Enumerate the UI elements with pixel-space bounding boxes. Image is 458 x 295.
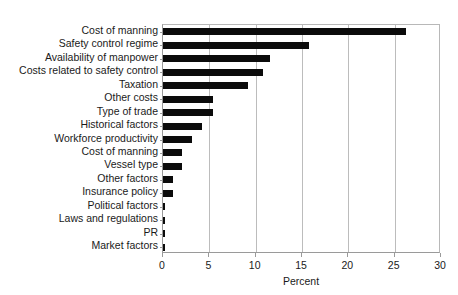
x-tick-mark xyxy=(301,253,302,257)
x-tick-label: 25 xyxy=(379,259,409,271)
bar-row xyxy=(163,227,165,240)
bar xyxy=(163,149,182,156)
category-axis-labels: Cost of manningSafety control regimeAvai… xyxy=(0,24,158,253)
bar xyxy=(163,230,165,237)
y-tick-mark xyxy=(160,140,163,141)
bars-container xyxy=(163,25,439,252)
category-label: Safety control regime xyxy=(0,38,158,49)
category-label: Political factors xyxy=(0,200,158,211)
bar xyxy=(163,82,248,89)
y-tick-mark xyxy=(160,72,163,73)
y-tick-mark xyxy=(160,234,163,235)
category-label: Insurance policy xyxy=(0,186,158,197)
category-label: Other costs xyxy=(0,92,158,103)
bar-row xyxy=(163,25,406,38)
y-tick-mark xyxy=(160,45,163,46)
bar-row xyxy=(163,214,165,227)
category-label: Workforce productivity xyxy=(0,133,158,144)
x-axis: Percent 051015202530 xyxy=(162,253,440,295)
x-tick-label: 30 xyxy=(425,259,455,271)
bar xyxy=(163,163,182,170)
bar-row xyxy=(163,146,182,159)
category-label: Historical factors xyxy=(0,119,158,130)
x-tick-label: 0 xyxy=(147,259,177,271)
x-tick-mark xyxy=(162,253,163,257)
bar xyxy=(163,55,270,62)
plot-area xyxy=(162,24,440,253)
y-tick-mark xyxy=(160,153,163,154)
y-tick-mark xyxy=(160,113,163,114)
bar xyxy=(163,190,173,197)
y-tick-mark xyxy=(160,166,163,167)
x-axis-title: Percent xyxy=(162,275,440,287)
bar-row xyxy=(163,160,182,173)
category-label: Availability of manpower xyxy=(0,52,158,63)
x-tick-mark xyxy=(208,253,209,257)
y-tick-mark xyxy=(160,32,163,33)
bar-row xyxy=(163,187,173,200)
bar-row xyxy=(163,173,173,186)
bar xyxy=(163,176,173,183)
bar xyxy=(163,42,309,49)
bar-row xyxy=(163,92,213,105)
y-tick-mark xyxy=(160,247,163,248)
bar xyxy=(163,217,165,224)
x-tick-label: 10 xyxy=(240,259,270,271)
bar-row xyxy=(163,119,202,132)
bar-row xyxy=(163,241,165,254)
bar xyxy=(163,136,192,143)
bar-row xyxy=(163,200,165,213)
bar xyxy=(163,69,263,76)
category-label: Type of trade xyxy=(0,106,158,117)
x-tick-label: 20 xyxy=(332,259,362,271)
bar-row xyxy=(163,79,248,92)
y-tick-mark xyxy=(160,180,163,181)
category-label: Cost of manning xyxy=(0,25,158,36)
x-tick-mark xyxy=(347,253,348,257)
x-tick-label: 15 xyxy=(286,259,316,271)
category-label: Cost of manning xyxy=(0,146,158,157)
bar xyxy=(163,123,202,130)
x-tick-label: 5 xyxy=(193,259,223,271)
y-tick-mark xyxy=(160,99,163,100)
bar xyxy=(163,109,213,116)
y-tick-mark xyxy=(160,59,163,60)
bar-row xyxy=(163,65,263,78)
bar-row xyxy=(163,106,213,119)
bar-row xyxy=(163,38,309,51)
x-tick-mark xyxy=(394,253,395,257)
category-label: Laws and regulations xyxy=(0,213,158,224)
x-tick-mark xyxy=(255,253,256,257)
category-label: Costs related to safety control xyxy=(0,65,158,76)
y-tick-mark xyxy=(160,86,163,87)
category-label: Vessel type xyxy=(0,159,158,170)
y-tick-mark xyxy=(160,220,163,221)
category-label: Market factors xyxy=(0,240,158,251)
horizontal-bar-chart: Cost of manningSafety control regimeAvai… xyxy=(0,0,458,295)
bar-row xyxy=(163,52,270,65)
bar xyxy=(163,203,165,210)
category-label: PR xyxy=(0,227,158,238)
bar xyxy=(163,28,406,35)
category-label: Other factors xyxy=(0,173,158,184)
y-tick-mark xyxy=(160,193,163,194)
category-label: Taxation xyxy=(0,79,158,90)
bar xyxy=(163,96,213,103)
y-tick-mark xyxy=(160,126,163,127)
x-tick-mark xyxy=(440,253,441,257)
bar-row xyxy=(163,133,192,146)
bar xyxy=(163,244,165,251)
y-tick-mark xyxy=(160,207,163,208)
